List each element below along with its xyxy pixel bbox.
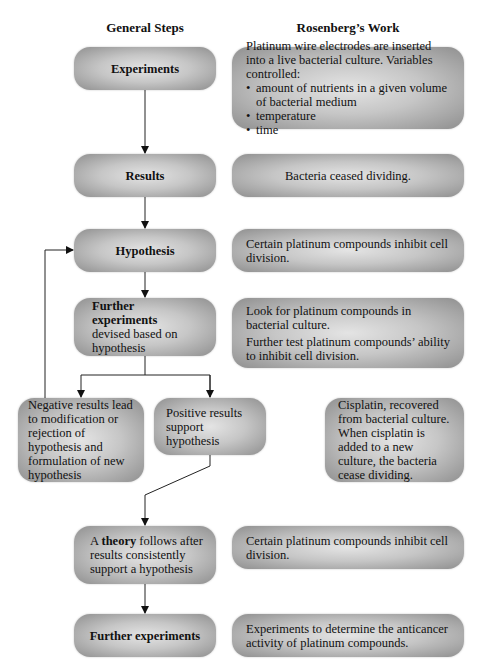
- work-final-experiments-text: Experiments to determine the anticancer …: [246, 622, 450, 650]
- variable-item: time: [256, 123, 450, 137]
- step-positive-results: Positive results support hypothesis: [154, 398, 266, 455]
- step-hypothesis: Hypothesis: [74, 229, 216, 272]
- work-experiments: Platinum wire electrodes are inserted in…: [232, 47, 464, 129]
- step-theory: A theory follows after results consisten…: [74, 526, 216, 584]
- work-results: Bacteria ceased dividing.: [232, 154, 464, 197]
- variables-list: amount of nutrients in a given volume of…: [246, 81, 450, 137]
- negative-results-text: Negative results lead to modification or…: [28, 398, 134, 482]
- work-further-experiments-2: Further test platinum compounds’ ability…: [246, 335, 450, 363]
- work-cisplatin-text: Cisplatin, recovered from bacterial cult…: [338, 398, 451, 482]
- positive-results-text: Positive results support hypothesis: [166, 406, 254, 448]
- theory-word: theory: [101, 534, 136, 548]
- work-hypothesis: Certain platinum compounds inhibit cell …: [232, 229, 464, 272]
- work-hypothesis-text: Certain platinum compounds inhibit cell …: [246, 237, 450, 265]
- work-experiments-intro: Platinum wire electrodes are inserted in…: [246, 39, 450, 81]
- step-negative-results: Negative results lead to modification or…: [18, 398, 144, 482]
- further-experiments-title: Further experiments: [92, 299, 157, 327]
- work-further-experiments: Look for platinum compounds in bacterial…: [232, 298, 464, 368]
- theory-prefix: A: [90, 534, 101, 548]
- further-experiments-desc: devised based on hypothesis: [92, 327, 177, 355]
- variable-item: temperature: [256, 109, 450, 123]
- work-cisplatin: Cisplatin, recovered from bacterial cult…: [325, 398, 464, 482]
- step-final-experiments: Further experiments: [74, 614, 216, 657]
- work-theory-text: Certain platinum compounds inhibit cell …: [246, 534, 450, 562]
- step-results: Results: [74, 154, 216, 197]
- work-theory: Certain platinum compounds inhibit cell …: [232, 526, 464, 569]
- variable-item: amount of nutrients in a given volume of…: [256, 81, 450, 109]
- step-further-experiments: Further experiments devised based on hyp…: [74, 298, 216, 356]
- step-experiments: Experiments: [74, 47, 216, 90]
- work-further-experiments-1: Look for platinum compounds in bacterial…: [246, 304, 450, 332]
- work-final-experiments: Experiments to determine the anticancer …: [232, 614, 464, 657]
